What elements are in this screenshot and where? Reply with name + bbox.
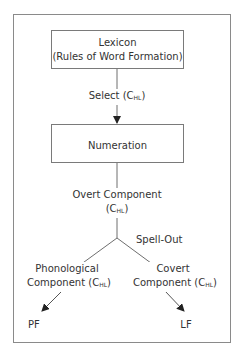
numeration-box: Numeration [51, 124, 184, 163]
covert-component-label: Covert Component (CHL) [133, 262, 213, 292]
numeration-label: Numeration [88, 140, 147, 151]
overt-component-label: Overt Component (CHL) [67, 188, 167, 218]
pf-label: PF [26, 318, 42, 332]
lexicon-title: Lexicon [52, 36, 183, 50]
left-branch [80, 238, 117, 265]
spellout-label: Spell-Out [136, 233, 186, 247]
lexicon-box: Lexicon (Rules of Word Formation) [51, 30, 184, 69]
lf-label: LF [178, 318, 194, 332]
pf-arrow [42, 291, 62, 311]
phonological-component-label: Phonological Component (CHL) [27, 262, 107, 292]
select-label: Select (CHL) [87, 89, 147, 105]
lexicon-subtitle: (Rules of Word Formation) [52, 50, 183, 64]
lf-arrow [165, 291, 184, 311]
